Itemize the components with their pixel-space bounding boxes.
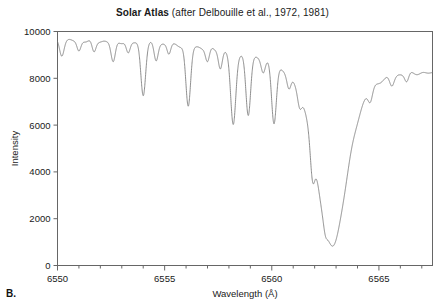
spectrum-curve (58, 39, 433, 246)
y-axis-tick-label: 4000 (29, 166, 50, 177)
plot-frame (58, 32, 433, 266)
figure-panel-b: Solar Atlas (after Delbouille et al., 19… (0, 0, 445, 307)
y-axis-tick-label: 6000 (29, 120, 50, 131)
y-axis-tick-label: 10000 (24, 26, 50, 37)
x-axis-title: Wavelength (Å) (212, 288, 277, 299)
y-axis-tick-label: 2000 (29, 213, 50, 224)
x-axis-tick-label: 6550 (47, 273, 68, 284)
y-axis-tick-label: 0 (45, 260, 50, 271)
x-axis-tick-label: 6560 (261, 273, 282, 284)
y-axis-title: Intensity (9, 131, 20, 167)
panel-label: B. (6, 288, 16, 299)
x-axis-tick-label: 6565 (368, 273, 389, 284)
y-axis-tick-label: 8000 (29, 73, 50, 84)
x-axis-tick-label: 6555 (154, 273, 175, 284)
spectrum-plot: 0200040006000800010000Intensity655065556… (0, 0, 445, 307)
